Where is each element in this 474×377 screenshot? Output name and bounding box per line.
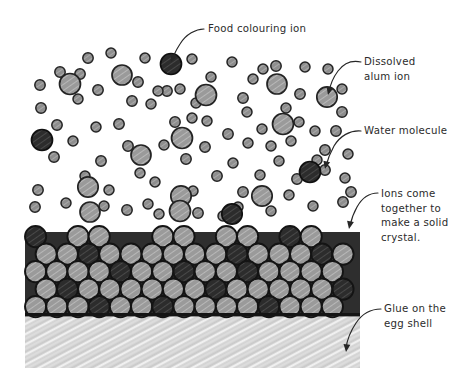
water-molecule-particle — [106, 48, 116, 58]
water-molecule-particle — [93, 85, 103, 95]
water-molecule-particle — [308, 201, 318, 211]
alum-ion-particle — [317, 87, 337, 107]
water-molecule-particle — [320, 145, 330, 155]
water-molecule-particle — [49, 152, 59, 162]
water-molecule-particle — [187, 113, 197, 123]
water-molecule-particle — [127, 96, 137, 106]
water-molecule-particle — [91, 122, 101, 132]
crystal-baseline — [25, 313, 360, 316]
alum-ion-particle — [252, 186, 272, 206]
water-molecule-particle — [212, 171, 222, 181]
alum-ion-particle — [112, 65, 132, 85]
colouring-ion-particle — [300, 162, 321, 183]
water-molecule-particle — [295, 89, 305, 99]
water-molecule-particle — [343, 149, 353, 159]
alum-ion-particle — [172, 128, 193, 149]
water-molecule-particle — [200, 142, 210, 152]
water-molecule-particle — [346, 187, 356, 197]
water-molecule-particle — [154, 209, 164, 219]
water-molecule-particle — [61, 198, 71, 208]
water-molecule-particle — [96, 156, 106, 166]
water-molecule-particle — [337, 84, 347, 94]
water-molecule-particle — [140, 53, 150, 63]
alum-ion-particle — [267, 74, 287, 94]
water-molecule-particle — [36, 103, 46, 113]
water-molecule-particle — [122, 205, 132, 215]
water-molecule-particle — [228, 158, 238, 168]
water-molecule-particle — [206, 72, 216, 82]
label-water-molecule: Water molecule — [364, 125, 447, 136]
water-molecule-particle — [242, 107, 252, 117]
water-molecule-particle — [33, 185, 43, 195]
water-molecule-particle — [337, 107, 347, 117]
crystal-layer — [25, 226, 360, 317]
water-molecule-particle — [284, 190, 294, 200]
water-molecule-particle — [83, 53, 93, 63]
water-molecule-particle — [255, 170, 265, 180]
water-molecule-particle — [52, 120, 62, 130]
water-molecule-particle — [266, 206, 276, 216]
label-dissolved-alum-ion: Dissolvedalum ion — [364, 56, 415, 82]
leader-ions-come-together — [350, 193, 378, 226]
leader-water-molecule — [326, 131, 361, 166]
water-molecule-particle — [281, 103, 291, 113]
alum-ion-particle — [273, 114, 294, 135]
water-molecule-particle — [286, 136, 296, 146]
colouring-ion-particle — [222, 204, 242, 224]
water-molecule-particle — [271, 61, 281, 71]
water-molecule-particle — [294, 117, 304, 127]
water-molecule-particle — [143, 199, 153, 209]
alum-ion-particle — [60, 74, 81, 95]
water-molecule-particle — [274, 156, 284, 166]
water-molecule-particle — [187, 54, 197, 64]
water-molecule-particle — [35, 80, 45, 90]
alum-ion-particle — [170, 201, 191, 222]
water-molecule-particle — [331, 126, 341, 136]
water-molecule-particle — [159, 140, 169, 150]
label-food-colouring-ion: Food colouring ion — [208, 23, 306, 34]
water-molecule-particle — [223, 129, 233, 139]
water-molecule-particle — [175, 84, 185, 94]
water-molecule-particle — [170, 117, 180, 127]
leader-ions-come-together-arrowhead — [347, 221, 354, 229]
water-molecule-particle — [243, 138, 253, 148]
diagram-canvas: Food colouring ionDissolvedalum ionWater… — [0, 0, 474, 377]
colouring-ion-particle — [32, 130, 53, 151]
alum-ion-particle — [131, 145, 151, 165]
alum-ion-particle — [78, 177, 98, 197]
water-molecule-particle — [238, 93, 248, 103]
water-molecule-particle — [30, 202, 40, 212]
water-molecule-particle — [104, 185, 114, 195]
water-molecule-particle — [193, 208, 203, 218]
water-molecule-particle — [202, 116, 212, 126]
water-molecule-particle — [258, 64, 268, 74]
water-molecule-particle — [68, 136, 78, 146]
alum-crystal-diagram: Food colouring ionDissolvedalum ionWater… — [0, 0, 474, 377]
water-molecule-particle — [238, 187, 248, 197]
water-molecule-particle — [310, 126, 320, 136]
water-molecule-particle — [135, 168, 145, 178]
water-molecule-particle — [150, 177, 160, 187]
glue-layer — [25, 316, 360, 368]
water-molecule-particle — [266, 141, 276, 151]
water-molecule-particle — [323, 64, 333, 74]
water-molecule-particle — [300, 62, 310, 72]
water-molecule-particle — [248, 74, 258, 84]
water-molecule-particle — [181, 154, 191, 164]
water-molecule-particle — [257, 124, 267, 134]
label-ions-come-together: Ions cometogether tomake a solidcrystal. — [381, 188, 448, 243]
alum-ion-particle — [196, 85, 217, 106]
alum-ion-particle — [80, 202, 100, 222]
water-molecule-particle — [227, 57, 237, 67]
water-molecule-particle — [340, 173, 350, 183]
water-molecule-particle — [153, 86, 163, 96]
solution-particles — [30, 48, 356, 224]
water-molecule-particle — [338, 197, 348, 207]
water-molecule-particle — [114, 119, 124, 129]
label-glue-on-egg-shell: Glue on theegg shell — [384, 303, 446, 329]
water-molecule-particle — [133, 77, 143, 87]
glue-fill — [25, 316, 360, 368]
water-molecule-particle — [146, 99, 156, 109]
water-molecule-particle — [73, 94, 83, 104]
